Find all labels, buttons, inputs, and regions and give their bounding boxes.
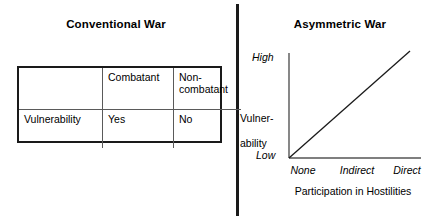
table-header-row: Combatant Non- combatant	[19, 68, 241, 110]
conventional-war-table: Combatant Non- combatant Vulnerability Y…	[17, 66, 222, 143]
right-panel-title: Asymmetric War	[242, 18, 438, 30]
row-header-vulnerability: Vulnerability	[19, 110, 103, 149]
x-tick-none: None	[281, 164, 325, 176]
y-axis-title-line1: Vulner-	[240, 112, 288, 125]
column-header-noncombatant: Non- combatant	[174, 68, 242, 110]
y-axis-title-line2: ability	[240, 137, 288, 150]
two-panel-figure: Conventional War Combatant Non- combatan…	[0, 0, 438, 220]
x-tick-direct: Direct	[385, 164, 429, 176]
y-tick-high: High	[252, 51, 274, 63]
vulnerability-matrix: Combatant Non- combatant Vulnerability Y…	[19, 68, 241, 148]
table-corner-cell	[19, 68, 103, 110]
x-tick-indirect: Indirect	[331, 164, 383, 176]
cell-combatant-vulnerability: Yes	[103, 110, 174, 149]
data-line-vulnerability	[289, 51, 410, 158]
column-header-combatant: Combatant	[103, 68, 174, 110]
cell-noncombatant-vulnerability: No	[174, 110, 242, 149]
y-axis-title: Vulner- ability	[240, 99, 288, 162]
x-axis-title: Participation in Hostilities	[275, 185, 431, 197]
left-panel-title: Conventional War	[0, 18, 232, 30]
table-row: Vulnerability Yes No	[19, 110, 241, 149]
